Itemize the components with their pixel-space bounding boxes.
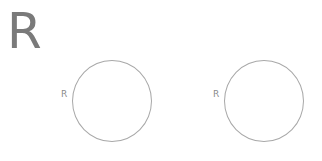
- circle-1: [72, 60, 152, 142]
- circle-2-label: R: [213, 89, 219, 99]
- circle-1-label: R: [61, 89, 67, 99]
- heading-letter: R: [7, 6, 42, 56]
- circle-2: [224, 60, 304, 142]
